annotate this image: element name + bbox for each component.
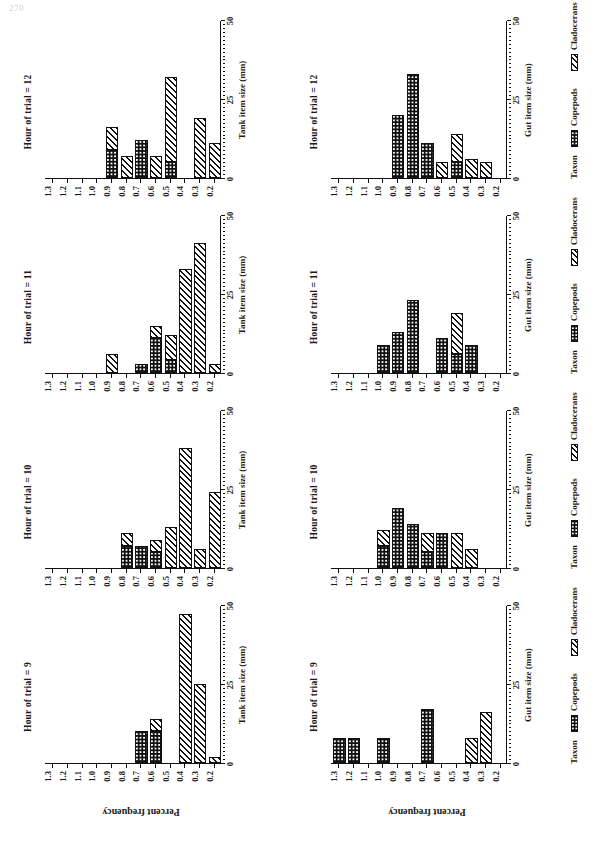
legend-title: Taxon <box>569 155 579 179</box>
bar-copepods <box>391 115 403 178</box>
value-minor-tick <box>223 473 225 474</box>
value-minor-tick <box>509 637 511 638</box>
value-minor-tick <box>223 556 225 557</box>
bar-copepods <box>164 162 176 178</box>
value-minor-tick <box>509 668 511 669</box>
category-label: 0.3 <box>476 576 486 587</box>
value-minor-tick <box>509 704 511 705</box>
panel-tank-hour-1: Hour of trial = 1002550Tank item size (m… <box>23 409 273 595</box>
panel-title: Hour of trial = 11 <box>309 214 319 400</box>
plot-area: 02550Gut item size (mm)0.20.30.40.50.60.… <box>331 606 507 764</box>
value-minor-tick <box>223 743 225 744</box>
value-minor-tick <box>509 28 511 29</box>
value-minor-tick <box>509 469 511 470</box>
figure-container: Percent frequency Percent frequency Hour… <box>9 10 601 848</box>
plot-area: 02550Gut item size (mm)0.20.30.40.50.60.… <box>331 216 507 374</box>
value-minor-tick <box>223 469 225 470</box>
figure-inner: Percent frequency Percent frequency Hour… <box>9 10 601 848</box>
value-minor-tick <box>223 418 225 419</box>
bar-copepods <box>406 74 418 178</box>
value-minor-tick <box>223 641 225 642</box>
category-label: 0.4 <box>461 576 471 587</box>
value-minor-tick <box>509 139 511 140</box>
value-minor-tick <box>509 525 511 526</box>
value-minor-tick <box>223 95 225 96</box>
panel-title: Hour of trial = 10 <box>23 409 33 595</box>
value-minor-tick <box>223 258 225 259</box>
value-minor-tick <box>223 493 225 494</box>
bar-cladocerans <box>149 719 161 732</box>
value-minor-tick <box>223 704 225 705</box>
category-label: 1.1 <box>358 186 368 197</box>
category-tick <box>485 569 486 573</box>
legend-item-cladocerans: Cladocerans <box>569 2 579 71</box>
plot-area: 02550Gut item size (mm)0.20.30.40.50.60.… <box>331 411 507 569</box>
category-label: 1.1 <box>358 381 368 392</box>
legend: TaxonCopepodsCladocerans <box>569 0 579 179</box>
category-axis-line <box>331 373 507 374</box>
value-minor-tick <box>223 680 225 681</box>
value-tick-label: 50 <box>511 212 521 221</box>
value-minor-tick <box>223 107 225 108</box>
category-tick <box>455 764 456 768</box>
value-tick <box>221 410 225 411</box>
bar-groups <box>331 411 507 568</box>
bar-groups <box>45 21 221 178</box>
category-label: 0.2 <box>204 186 214 197</box>
value-minor-tick <box>223 314 225 315</box>
value-tick-label: 0 <box>511 567 521 571</box>
value-minor-tick <box>223 282 225 283</box>
value-minor-tick <box>223 430 225 431</box>
category-tick <box>367 374 368 378</box>
value-minor-tick <box>509 239 511 240</box>
value-minor-tick <box>509 75 511 76</box>
category-tick <box>96 569 97 573</box>
category-label: 0.9 <box>388 771 398 782</box>
bar-cladocerans <box>164 335 176 360</box>
value-tick-label: 50 <box>511 602 521 611</box>
category-tick <box>382 569 383 573</box>
value-minor-tick <box>509 652 511 653</box>
legend-swatch-diagonal-hatch <box>570 639 577 656</box>
category-tick <box>184 374 185 378</box>
value-tick-label: 50 <box>225 602 235 611</box>
category-label: 0.6 <box>146 771 156 782</box>
category-label: 1.2 <box>344 381 354 392</box>
value-tick-label: 0 <box>511 762 521 766</box>
bar-copepods <box>135 546 147 568</box>
bar-cladocerans <box>479 712 491 763</box>
value-minor-tick <box>509 227 511 228</box>
category-label: 0.9 <box>102 381 112 392</box>
value-minor-tick <box>223 509 225 510</box>
legend-item-cladocerans: Cladocerans <box>569 587 579 656</box>
legend-label: Cladocerans <box>569 587 579 635</box>
category-tick <box>155 764 156 768</box>
category-tick <box>111 569 112 573</box>
legend: TaxonCopepodsCladocerans <box>569 575 579 764</box>
value-minor-tick <box>509 641 511 642</box>
category-tick <box>397 179 398 183</box>
value-minor-tick <box>509 322 511 323</box>
value-minor-tick <box>509 314 511 315</box>
bar-cladocerans <box>465 549 477 568</box>
category-tick <box>367 764 368 768</box>
bar-cladocerans <box>208 143 220 178</box>
value-minor-tick <box>223 660 225 661</box>
value-minor-tick <box>509 414 511 415</box>
bar-copepods <box>347 738 359 763</box>
value-minor-tick <box>509 743 511 744</box>
value-minor-tick <box>509 629 511 630</box>
panel-gut-hour-0: Hour of trial = 902550Gut item size (mm)… <box>309 604 559 790</box>
value-tick <box>507 568 511 569</box>
panel-tank-hour-3: Hour of trial = 1202550Tank item size (m… <box>23 19 273 205</box>
value-minor-tick <box>509 755 511 756</box>
value-minor-tick <box>223 345 225 346</box>
category-label: 0.5 <box>446 771 456 782</box>
panel-gut-hour-1: Hour of trial = 1002550Gut item size (mm… <box>309 409 559 595</box>
plot-area: 02550Tank item size (mm)0.20.30.40.50.60… <box>45 21 221 179</box>
value-minor-tick <box>509 345 511 346</box>
legend-item-cladocerans: Cladocerans <box>569 197 579 266</box>
value-minor-tick <box>223 146 225 147</box>
category-label: 0.2 <box>490 186 500 197</box>
value-minor-tick <box>509 365 511 366</box>
